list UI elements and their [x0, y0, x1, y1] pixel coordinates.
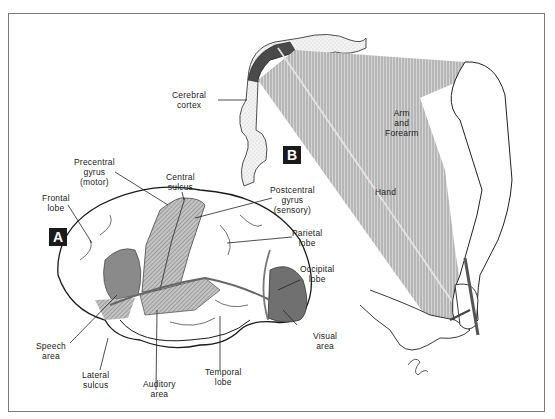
- panel-a-badge: A: [49, 228, 67, 246]
- label-occipital-lobe: Occipital lobe: [300, 264, 334, 284]
- label-auditory-area: Auditory area: [143, 379, 176, 399]
- label-temporal-lobe: Temporal lobe: [205, 367, 242, 387]
- label-frontal-lobe: Frontal lobe: [42, 193, 70, 213]
- label-speech-area: Speech area: [36, 341, 66, 361]
- label-cerebral-cortex: Cerebral cortex: [172, 90, 206, 110]
- label-postcentral-gyrus: Postcentral gyrus (sensory): [270, 185, 315, 215]
- label-central-sulcus: Central sulcus: [166, 172, 195, 192]
- label-precentral-gyrus: Precentral gyrus (motor): [74, 157, 115, 187]
- label-hand: Hand: [375, 187, 396, 197]
- label-lateral-sulcus: Lateral sulcus: [82, 370, 109, 390]
- label-parietal-lobe: Parietal lobe: [292, 228, 322, 248]
- label-visual-area: Visual area: [313, 331, 337, 351]
- panel-b-badge: B: [283, 146, 301, 164]
- label-arm-and-forearm: Arm and Forearm: [385, 108, 419, 138]
